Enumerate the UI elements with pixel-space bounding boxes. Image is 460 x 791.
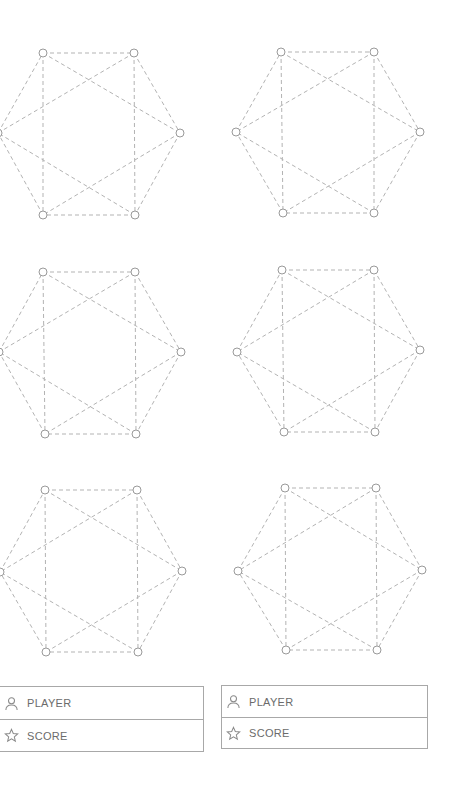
edge-line[interactable] (236, 52, 374, 132)
game-board[interactable] (230, 460, 460, 680)
vertex-node[interactable] (41, 430, 49, 438)
edge-line[interactable] (134, 53, 180, 133)
vertex-node[interactable] (416, 346, 424, 354)
vertex-node[interactable] (281, 484, 289, 492)
edge-line[interactable] (374, 270, 420, 350)
vertex-node[interactable] (370, 266, 378, 274)
vertex-node[interactable] (41, 486, 49, 494)
vertex-node[interactable] (418, 566, 426, 574)
edge-line[interactable] (282, 270, 284, 432)
edge-line[interactable] (282, 270, 420, 350)
edge-line[interactable] (285, 488, 286, 650)
edge-line[interactable] (375, 350, 420, 432)
vertex-node[interactable] (372, 484, 380, 492)
vertex-node[interactable] (39, 268, 47, 276)
edge-line[interactable] (237, 270, 374, 352)
edge-line[interactable] (285, 488, 422, 570)
vertex-node[interactable] (279, 209, 287, 217)
vertex-node[interactable] (0, 129, 2, 137)
edge-line[interactable] (236, 52, 281, 132)
vertex-node[interactable] (39, 211, 47, 219)
edge-line[interactable] (43, 272, 181, 352)
edge-line[interactable] (134, 53, 135, 215)
edge-line[interactable] (45, 490, 182, 571)
vertex-node[interactable] (278, 266, 286, 274)
vertex-node[interactable] (131, 211, 139, 219)
edge-line[interactable] (376, 488, 377, 650)
edge-line[interactable] (376, 488, 422, 570)
edge-line[interactable] (0, 572, 138, 652)
vertex-node[interactable] (178, 567, 186, 575)
edge-line[interactable] (377, 570, 422, 650)
game-board[interactable] (0, 230, 230, 460)
edge-line[interactable] (238, 488, 376, 571)
edge-line[interactable] (281, 52, 420, 132)
edge-line[interactable] (286, 570, 422, 650)
vertex-node[interactable] (132, 430, 140, 438)
score-row: SCORE (222, 717, 427, 748)
vertex-node[interactable] (0, 348, 3, 356)
vertex-node[interactable] (130, 49, 138, 57)
game-board[interactable] (230, 0, 460, 240)
edge-line[interactable] (138, 571, 182, 652)
edge-line[interactable] (0, 272, 135, 352)
edge-line[interactable] (46, 571, 182, 652)
edge-line[interactable] (281, 52, 283, 213)
edge-line[interactable] (374, 52, 420, 132)
vertex-node[interactable] (234, 567, 242, 575)
edge-line[interactable] (0, 133, 135, 215)
edge-line[interactable] (283, 132, 420, 213)
vertex-node[interactable] (370, 209, 378, 217)
vertex-node[interactable] (134, 648, 142, 656)
edge-line[interactable] (43, 272, 45, 434)
edge-line[interactable] (374, 270, 375, 432)
edge-line[interactable] (0, 272, 43, 352)
vertex-node[interactable] (176, 129, 184, 137)
vertex-node[interactable] (371, 428, 379, 436)
vertex-node[interactable] (133, 486, 141, 494)
edge-line[interactable] (43, 53, 180, 133)
vertex-node[interactable] (39, 49, 47, 57)
vertex-node[interactable] (282, 646, 290, 654)
edge-line[interactable] (236, 132, 374, 213)
vertex-node[interactable] (177, 348, 185, 356)
vertex-node[interactable] (277, 48, 285, 56)
edge-line[interactable] (237, 270, 282, 352)
edge-line[interactable] (137, 490, 138, 652)
edge-line[interactable] (238, 571, 286, 650)
edge-line[interactable] (136, 352, 181, 434)
vertex-node[interactable] (233, 348, 241, 356)
edge-line[interactable] (0, 572, 46, 652)
vertex-node[interactable] (232, 128, 240, 136)
vertex-node[interactable] (42, 648, 50, 656)
game-board[interactable] (230, 230, 460, 460)
edge-line[interactable] (238, 488, 285, 571)
edge-line[interactable] (45, 352, 181, 434)
edge-line[interactable] (236, 132, 283, 213)
vertex-node[interactable] (370, 48, 378, 56)
edge-line[interactable] (135, 272, 136, 434)
edge-line[interactable] (43, 133, 180, 215)
edge-line[interactable] (374, 132, 420, 213)
edge-line[interactable] (45, 490, 46, 652)
edge-line[interactable] (0, 352, 136, 434)
edge-line[interactable] (0, 490, 45, 572)
vertex-node[interactable] (0, 568, 4, 576)
vertex-node[interactable] (131, 268, 139, 276)
edge-line[interactable] (0, 53, 43, 133)
vertex-node[interactable] (280, 428, 288, 436)
edge-line[interactable] (0, 352, 45, 434)
vertex-node[interactable] (373, 646, 381, 654)
vertex-node[interactable] (416, 128, 424, 136)
game-board[interactable] (0, 460, 230, 680)
edge-line[interactable] (284, 350, 420, 432)
edge-line[interactable] (137, 490, 182, 571)
edge-line[interactable] (238, 571, 377, 650)
edge-line[interactable] (237, 352, 284, 432)
edge-line[interactable] (135, 133, 180, 215)
edge-line[interactable] (0, 133, 43, 215)
game-board[interactable] (0, 0, 230, 240)
edge-line[interactable] (0, 490, 137, 572)
edge-line[interactable] (135, 272, 181, 352)
edge-line[interactable] (237, 352, 375, 432)
